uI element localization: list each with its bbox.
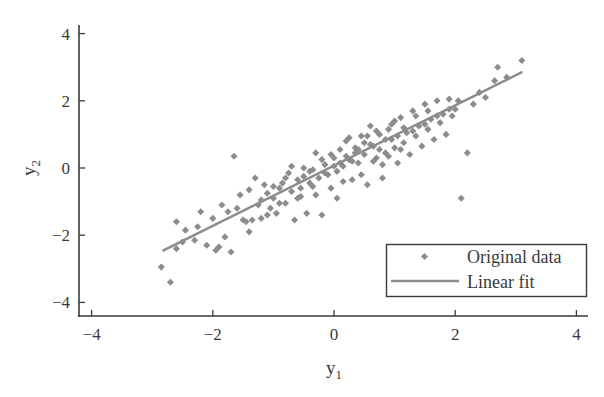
y-tick-label: −2 [52,226,70,245]
data-point [276,200,283,207]
data-point [458,195,465,202]
data-point [312,149,319,156]
data-point [182,227,189,234]
data-point [355,159,362,166]
linear-fit-line [163,72,523,251]
data-point [249,217,256,224]
data-point [418,143,425,150]
data-point [394,159,401,166]
data-point [261,181,268,188]
data-point [424,107,431,114]
data-point [167,279,174,286]
data-point [312,191,319,198]
data-point [443,131,450,138]
y-tick-label: −4 [52,293,71,312]
data-point [194,223,201,230]
data-point [464,149,471,156]
scatter-chart: −4−2024 −4−2024 y1 y2 Original data Line… [0,0,604,397]
data-point [367,122,374,129]
data-point [227,248,234,255]
data-point [273,210,280,217]
data-point [234,205,241,212]
data-point [482,94,489,101]
data-point [191,237,198,244]
data-point [397,146,404,153]
y-axis: −4−2024 [52,25,85,317]
data-point [333,195,340,202]
data-point [158,264,165,271]
data-point [349,176,356,183]
data-point [376,146,383,153]
data-point [264,190,271,197]
data-point [446,96,453,103]
y-axis-label: y2 [18,160,43,176]
legend-label: Original data [467,247,561,267]
x-tick-label: 0 [330,325,339,344]
data-point [230,153,237,160]
data-point [297,185,304,192]
data-point [327,185,334,192]
y-tick-label: 2 [62,92,71,111]
x-tick-label: −4 [83,325,102,344]
data-point [437,119,444,126]
data-point [288,163,295,170]
data-point [282,200,289,207]
data-point [518,57,525,64]
data-point [470,101,477,108]
data-point [379,161,386,168]
x-axis-label: y1 [326,357,342,382]
data-point [358,133,365,140]
data-point [397,114,404,121]
data-point [221,233,228,240]
x-tick-label: −2 [204,325,222,344]
data-point [258,215,265,222]
x-axis: −4−2024 [78,310,588,344]
y-tick-label: 0 [62,159,71,178]
data-point [421,101,428,108]
data-point [340,178,347,185]
data-point [209,215,216,222]
y-tick-label: 4 [62,25,71,44]
data-point [379,175,386,182]
data-point [430,136,437,143]
data-point [267,205,274,212]
legend: Original data Linear fit [387,245,587,297]
data-point [494,64,501,71]
data-point [361,139,368,146]
data-point [364,181,371,188]
data-point [237,191,244,198]
data-point [400,139,407,146]
data-point [449,112,456,119]
data-point [218,201,225,208]
data-point [291,217,298,224]
legend-label: Linear fit [467,272,534,292]
data-point [252,175,259,182]
data-point [318,212,325,219]
data-point [173,218,180,225]
data-point [224,208,231,215]
x-tick-label: 2 [451,325,460,344]
data-point [246,228,253,235]
data-point [197,208,204,215]
data-point [358,171,365,178]
x-tick-label: 4 [572,325,581,344]
data-point [491,77,498,84]
data-point [264,212,271,219]
data-point [203,242,210,249]
data-point [391,144,398,151]
data-point [300,164,307,171]
data-point [337,146,344,153]
data-point [364,133,371,140]
data-point [433,97,440,104]
data-point [270,183,277,190]
data-point [303,210,310,217]
data-point [406,151,413,158]
data-point [246,186,253,193]
